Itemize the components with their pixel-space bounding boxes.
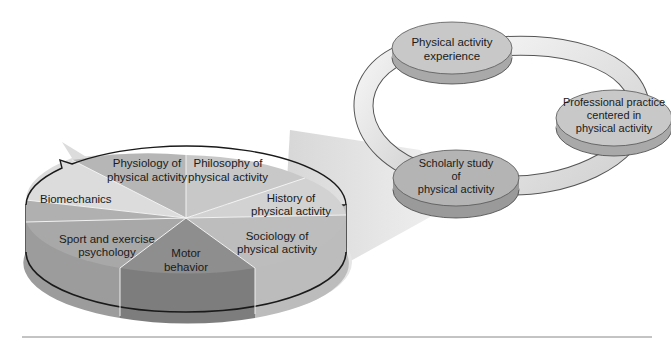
slice-label-sociology: physical activity (237, 243, 317, 255)
node-label-line: centered in (587, 109, 641, 121)
node-label-line: of (451, 170, 461, 182)
slice-label-biomechanics: Biomechanics (40, 193, 112, 205)
slice-label-history: History of (267, 192, 316, 204)
node-label-line: physical activity (576, 122, 653, 134)
diagram-canvas: Physical activity experience Professiona… (0, 0, 671, 342)
node-label-line: physical activity (418, 183, 495, 195)
slice-label-sport-psych: Sport and exercise (59, 233, 155, 245)
cycle-node-experience: Physical activity experience (392, 22, 512, 84)
slice-label-history: physical activity (251, 205, 331, 217)
slice-label-philosophy: physical activity (188, 171, 268, 183)
slice-label-sociology: Sociology of (246, 230, 309, 242)
node-label-line: Professional practice (563, 96, 665, 108)
slice-label-philosophy: Philosophy of (193, 157, 263, 169)
node-label-line: Physical activity (411, 36, 492, 48)
slice-label-motor: behavior (164, 261, 208, 273)
slice-label-motor: Motor (171, 247, 201, 259)
cycle-node-scholarly: Scholarly study of physical activity (393, 150, 519, 218)
cycle-node-professional: Professional practice centered in physic… (556, 90, 671, 156)
slice-label-physiology: Physiology of (113, 157, 182, 169)
slice-label-sport-psych: psychology (78, 246, 136, 258)
node-label-line: Scholarly study (419, 157, 494, 169)
slice-label-physiology: physical activity (107, 171, 187, 183)
node-label-line: experience (424, 50, 480, 62)
